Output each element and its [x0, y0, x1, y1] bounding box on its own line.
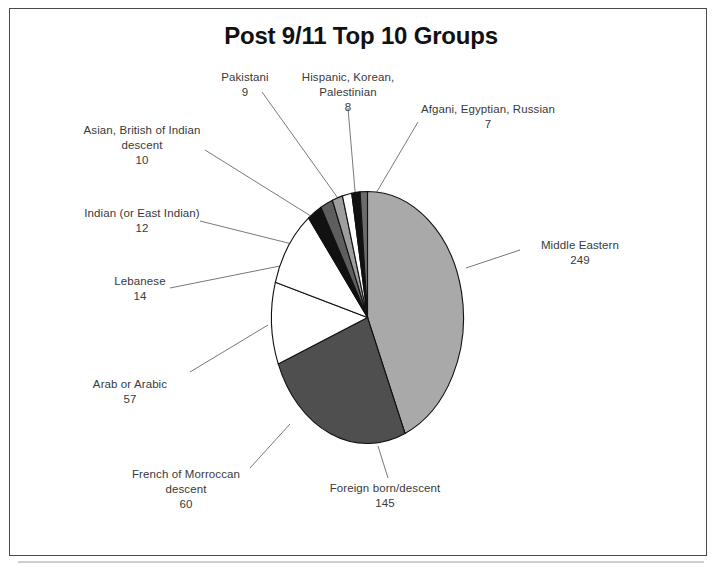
label-afgani-value: 7 — [404, 117, 572, 132]
label-foreign-name: Foreign born/descent — [330, 482, 441, 494]
label-afgani-name: Afgani, Egyptian, Russian — [421, 103, 555, 115]
label-indian-value: 12 — [62, 221, 222, 236]
label-middle-eastern-name: Middle Eastern — [541, 239, 619, 251]
label-arab-name: Arab or Arabic — [93, 378, 167, 390]
label-arab-or-arabic: Arab or Arabic 57 — [70, 377, 190, 407]
label-pakistani: Pakistani 9 — [200, 70, 290, 100]
label-lebanese: Lebanese 14 — [80, 274, 200, 304]
label-indian-east-indian: Indian (or East Indian) 12 — [62, 206, 222, 236]
label-lebanese-name: Lebanese — [114, 275, 165, 287]
page-edge-artifact — [18, 561, 704, 563]
label-middle-eastern: Middle Eastern 249 — [510, 238, 650, 268]
label-asian-line2: descent — [62, 138, 222, 153]
label-french-line2: descent — [106, 482, 266, 497]
label-arab-value: 57 — [70, 392, 190, 407]
page-title: Post 9/11 Top 10 Groups — [0, 22, 722, 50]
label-hispanic-korean-palestinian: Hispanic, Korean, Palestinian 8 — [292, 70, 404, 115]
label-french-line1: French of Morroccan — [132, 468, 240, 480]
label-asian-value: 10 — [62, 153, 222, 168]
label-french-morroccan: French of Morroccan descent 60 — [106, 467, 266, 512]
label-lebanese-value: 14 — [80, 289, 200, 304]
label-middle-eastern-value: 249 — [510, 253, 650, 268]
label-foreign-born-descent: Foreign born/descent 145 — [300, 481, 470, 511]
label-afgani-egyptian-russian: Afgani, Egyptian, Russian 7 — [404, 102, 572, 132]
label-hispanic-line1: Hispanic, Korean, — [302, 71, 394, 83]
label-hispanic-line2: Palestinian — [292, 85, 404, 100]
label-foreign-value: 145 — [300, 496, 470, 511]
label-pakistani-name: Pakistani — [221, 71, 269, 83]
label-pakistani-value: 9 — [200, 85, 290, 100]
label-hispanic-value: 8 — [292, 100, 404, 115]
label-french-value: 60 — [106, 497, 266, 512]
label-asian-line1: Asian, British of Indian — [84, 124, 201, 136]
label-indian-name: Indian (or East Indian) — [84, 207, 199, 219]
label-asian-british-indian: Asian, British of Indian descent 10 — [62, 123, 222, 168]
